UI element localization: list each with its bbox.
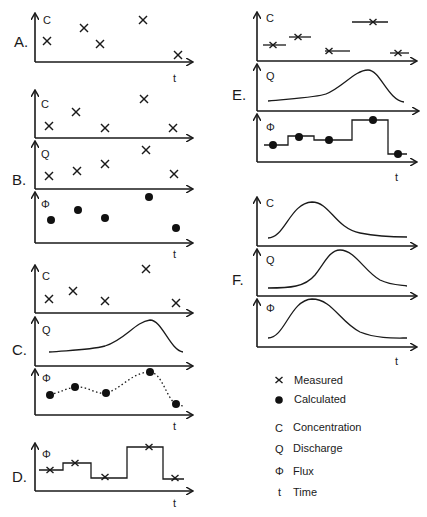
legend-flux: Φ Flux — [275, 465, 314, 477]
phi-axis-label: Φ — [266, 121, 275, 133]
legend-time: t Time — [278, 486, 317, 498]
c-axis-label: C — [43, 14, 51, 26]
panel-f: F. C Q Φ t — [232, 197, 416, 367]
panel-d: D. Φ t — [12, 444, 192, 509]
t-axis-label: t — [173, 420, 176, 432]
panel-a: A. C t — [14, 14, 192, 84]
panel-c: C. C Q Φ t — [12, 265, 192, 432]
flux-step-line — [39, 447, 184, 479]
phi-axis-label: Φ — [42, 372, 51, 384]
phi-symbol: Φ — [275, 465, 284, 477]
panel-e: E. C Q Φ t — [232, 12, 418, 183]
svg-text:Concentration: Concentration — [293, 421, 362, 433]
panel-b: B. C Q Φ t — [12, 91, 192, 260]
discharge-curve — [268, 250, 407, 288]
t-axis-label: t — [173, 248, 176, 260]
c-axis-label: C — [42, 270, 50, 282]
legend-discharge: Q Discharge — [275, 442, 343, 455]
flux-interpolation — [50, 372, 184, 406]
t-axis-label: t — [173, 72, 176, 84]
q-axis-label: Q — [41, 148, 50, 160]
panel-label: C. — [12, 341, 27, 358]
panel-label: B. — [12, 171, 26, 188]
phi-axis-label: Φ — [266, 302, 275, 314]
hydrograph-diagram: A. C t B. C Q Φ t C. C Q Φ t — [0, 0, 427, 517]
dot-marker-icon — [275, 396, 283, 404]
flux-step-line — [264, 120, 407, 154]
legend: Measured Calculated C Concentration Q Di… — [275, 374, 362, 498]
c-symbol: C — [275, 422, 283, 434]
panel-label: F. — [232, 271, 244, 288]
q-axis-label: Q — [42, 324, 51, 336]
t-axis-label: t — [395, 355, 398, 367]
svg-text:Discharge: Discharge — [293, 442, 343, 454]
q-axis-label: Q — [266, 70, 275, 82]
svg-text:Flux: Flux — [293, 465, 314, 477]
t-symbol: t — [278, 486, 281, 498]
legend-calculated: Calculated — [275, 393, 346, 405]
c-axis-label: C — [266, 12, 274, 24]
discharge-curve — [49, 320, 183, 352]
flux-curve — [268, 299, 407, 338]
q-axis-label: Q — [266, 254, 275, 266]
svg-text:Time: Time — [293, 486, 317, 498]
measured-markers — [43, 16, 182, 59]
t-axis-label: t — [173, 497, 176, 509]
c-axis-label: C — [266, 197, 274, 209]
q-symbol: Q — [275, 443, 284, 455]
legend-measured: Measured — [276, 374, 343, 386]
svg-text:Measured: Measured — [294, 374, 343, 386]
panel-label: E. — [232, 86, 246, 103]
discharge-curve — [268, 70, 404, 102]
panel-label: A. — [14, 33, 28, 50]
phi-axis-label: Φ — [42, 448, 51, 460]
legend-concentration: C Concentration — [275, 421, 362, 434]
phi-axis-label: Φ — [41, 198, 50, 210]
c-axis-label: C — [41, 98, 49, 110]
t-axis-label: t — [395, 171, 398, 183]
svg-text:Calculated: Calculated — [294, 393, 346, 405]
x-marker-icon — [276, 377, 283, 383]
concentration-curve — [268, 202, 407, 238]
panel-label: D. — [12, 468, 27, 485]
